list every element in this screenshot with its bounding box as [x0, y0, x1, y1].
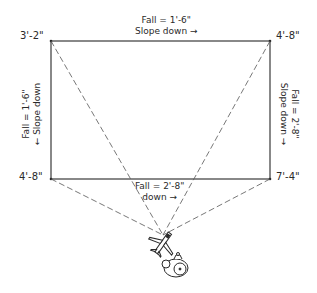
- camera-icon: [162, 253, 188, 278]
- right-fall-label: Fall = 2'-8": [289, 74, 300, 154]
- right-slope-text: Slope down: [279, 83, 289, 135]
- corner-label-bottom-left: 4'-8": [19, 172, 43, 182]
- corner-label-top-left: 3'-2": [20, 31, 44, 41]
- top-edge-annotation: Fall = 1'-6" Slope down →: [135, 15, 198, 37]
- top-slope-label: Slope down →: [135, 26, 198, 37]
- diagram-canvas: [0, 0, 317, 293]
- roof-outline: [51, 41, 270, 179]
- bottom-fall-label: Fall = 2'-8": [135, 181, 184, 192]
- left-edge-annotation: Fall = 1'-6" ← Slope down: [21, 74, 43, 154]
- bottom-slope-label: down →: [135, 192, 184, 203]
- left-slope-label: ← Slope down: [32, 74, 43, 154]
- top-slope-arrow-icon: →: [190, 26, 198, 36]
- right-slope-arrow-icon: →: [279, 138, 289, 146]
- corner-label-bottom-right: 7'-4": [276, 172, 300, 182]
- top-slope-text: Slope down: [135, 26, 187, 36]
- bottom-slope-text: down: [142, 192, 166, 202]
- bottom-slope-arrow-icon: →: [170, 192, 178, 202]
- left-slope-text: Slope down: [32, 83, 42, 135]
- bottom-edge-annotation: Fall = 2'-8" down →: [135, 181, 184, 203]
- right-edge-annotation: Fall = 2'-8" Slope down →: [278, 74, 300, 154]
- right-slope-label: Slope down →: [278, 74, 289, 154]
- left-fall-label: Fall = 1'-6": [21, 74, 32, 154]
- corner-label-top-right: 4'-8": [276, 31, 300, 41]
- top-fall-label: Fall = 1'-6": [135, 15, 198, 26]
- left-slope-arrow-icon: ←: [32, 138, 42, 146]
- sight-lines: [51, 41, 270, 235]
